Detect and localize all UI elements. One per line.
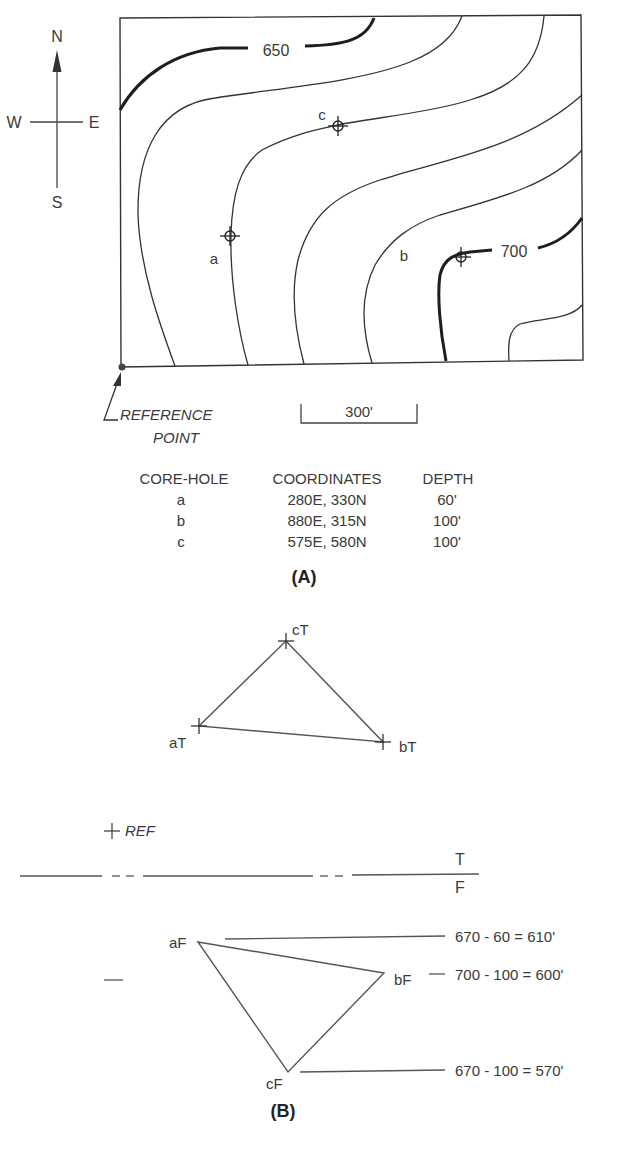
core-hole-table: CORE-HOLE COORDINATES DEPTH a 280E, 330N…: [139, 470, 473, 587]
contour-650-left: [120, 48, 248, 110]
core-hole-b-label: b: [400, 247, 408, 264]
contour-line: [364, 150, 582, 363]
elevation-b-label: 700 - 100 = 600': [455, 966, 564, 983]
contour-700-label: 700: [501, 243, 528, 260]
point-at-label: aT: [169, 734, 187, 751]
table-cell-depth: 100': [433, 512, 461, 529]
contour-700-right: [538, 218, 582, 248]
triangle-front: [198, 942, 384, 1072]
scale-bar-label: 300': [345, 403, 373, 420]
caption-a: (A): [292, 567, 317, 587]
point-bt-label: bT: [399, 738, 417, 755]
reference-point-dot: [119, 364, 126, 371]
table-cell-coords: 880E, 315N: [287, 512, 366, 529]
table-header-depth: DEPTH: [423, 470, 474, 487]
table-row: c 575E, 580N 100': [177, 533, 461, 550]
fold-line: T F: [20, 851, 479, 896]
scale-bar: 300': [301, 403, 417, 423]
contour-line: [509, 305, 582, 361]
reference-point-label-line2: POINT: [153, 429, 201, 446]
plus-markers: [191, 633, 391, 750]
contour-700-left: [439, 250, 492, 361]
point-bf-label: bF: [394, 971, 412, 988]
north-arrow-icon: [53, 50, 62, 72]
elevation-c-label: 670 - 100 = 570': [455, 1062, 564, 1079]
table-cell-hole: a: [177, 491, 186, 508]
fold-label-t: T: [455, 851, 465, 868]
contour-line: [138, 16, 462, 366]
elevation-leader-c: [300, 1070, 445, 1072]
compass-rose: N S W E: [6, 28, 99, 211]
core-hole-c-label: c: [318, 106, 326, 123]
table-cell-coords: 280E, 330N: [287, 491, 366, 508]
contour-line: [294, 95, 582, 364]
point-af-label: aF: [169, 934, 187, 951]
core-hole-c-marker: [328, 116, 348, 136]
top-view-triangle: cT aT bT: [169, 621, 417, 755]
compass-south-label: S: [52, 194, 63, 211]
ref-marker: REF: [104, 822, 156, 839]
elevation-a-label: 670 - 60 = 610': [455, 928, 555, 945]
three-point-problem-diagram: N S W E 650 700 a: [0, 0, 617, 1151]
point-ct-label: cT: [292, 621, 309, 638]
core-hole-a-label: a: [210, 250, 219, 267]
contour-line: [231, 16, 544, 365]
table-cell-depth: 100': [433, 533, 461, 550]
table-header-core-hole: CORE-HOLE: [139, 470, 228, 487]
table-cell-depth: 60': [437, 491, 457, 508]
fold-label-f: F: [455, 879, 465, 896]
table-cell-hole: b: [177, 512, 185, 529]
table-header-coordinates: COORDINATES: [273, 470, 382, 487]
contour-650-label: 650: [263, 42, 290, 59]
table-row: b 880E, 315N 100': [177, 512, 461, 529]
table-row: a 280E, 330N 60': [177, 491, 457, 508]
reference-arrow-icon: [104, 372, 121, 420]
triangle-top: [199, 641, 383, 742]
table-cell-coords: 575E, 580N: [287, 533, 366, 550]
contour-map: 650 700 a c: [104, 15, 583, 446]
point-cf-label: cF: [266, 1075, 283, 1092]
map-frame: [120, 15, 583, 367]
reference-point-label-line1: REFERENCE: [120, 406, 214, 423]
caption-b: (B): [271, 1101, 296, 1121]
front-view-triangle: aF bF cF 670 - 60 = 610' 700 - 100 = 600…: [104, 928, 564, 1121]
contour-650-right: [305, 18, 374, 46]
elevation-leader-a: [225, 936, 445, 939]
ref-label: REF: [125, 822, 156, 839]
table-cell-hole: c: [177, 533, 185, 550]
compass-east-label: E: [89, 114, 100, 131]
compass-west-label: W: [6, 114, 22, 131]
core-hole-b-marker: [451, 247, 471, 267]
core-hole-a-marker: [220, 226, 240, 246]
compass-north-label: N: [51, 28, 63, 45]
